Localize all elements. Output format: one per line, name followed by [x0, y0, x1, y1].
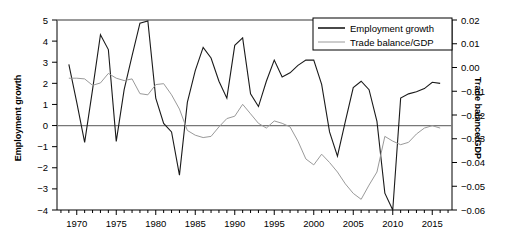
y-right-tick-label: −0.02: [461, 110, 485, 121]
y-left-tick-label: −3: [37, 183, 48, 194]
y-right-tick-label: 0.02: [461, 15, 480, 26]
legend-label: Employment growth: [350, 23, 434, 34]
y-right-tick-label: −0.04: [461, 157, 485, 168]
y-left-tick-label: 5: [43, 15, 48, 26]
y-right-tick-label: −0.03: [461, 133, 485, 144]
x-tick-label: 2015: [422, 218, 443, 229]
y-left-tick-label: −1: [37, 141, 48, 152]
series-line: [69, 73, 440, 199]
x-tick-label: 1980: [145, 218, 166, 229]
legend-label: Trade balance/GDP: [350, 37, 434, 48]
x-tick-label: 2005: [343, 218, 364, 229]
y-left-tick-label: 2: [43, 78, 48, 89]
y-left-tick-label: 1: [43, 99, 48, 110]
y-left-tick-label: −2: [37, 162, 48, 173]
x-axis-ticks: 1970197519801985199019952000200520102015: [61, 210, 448, 229]
chart-plot-area: 1970197519801985199019952000200520102015…: [0, 0, 508, 236]
y-left-tick-label: 4: [43, 36, 48, 47]
x-tick-label: 1975: [106, 218, 127, 229]
x-tick-label: 1985: [185, 218, 206, 229]
x-tick-label: 1970: [66, 218, 87, 229]
x-tick-label: 2010: [382, 218, 403, 229]
y-right-tick-label: 0.01: [461, 38, 480, 49]
y-left-tick-label: −4: [37, 205, 48, 216]
y-left-tick-label: 3: [43, 57, 48, 68]
y-right-tick-label: 0.00: [461, 62, 480, 73]
x-tick-label: 2000: [303, 218, 324, 229]
y-right-tick-label: −0.05: [461, 181, 485, 192]
y-axis-left-ticks: −4−3−2−1012345: [37, 15, 57, 216]
y-right-tick-label: −0.01: [461, 86, 485, 97]
y-axis-right-ticks: −0.06−0.05−0.04−0.03−0.02−0.010.000.010.…: [452, 15, 485, 216]
y-right-tick-label: −0.06: [461, 205, 485, 216]
x-tick-label: 1990: [224, 218, 245, 229]
chart-figure: Employment growth Trade balance/GDP 1970…: [0, 0, 508, 236]
y-left-tick-label: 0: [43, 120, 48, 131]
chart-legend: Employment growthTrade balance/GDP: [313, 18, 452, 50]
x-tick-label: 1995: [264, 218, 285, 229]
